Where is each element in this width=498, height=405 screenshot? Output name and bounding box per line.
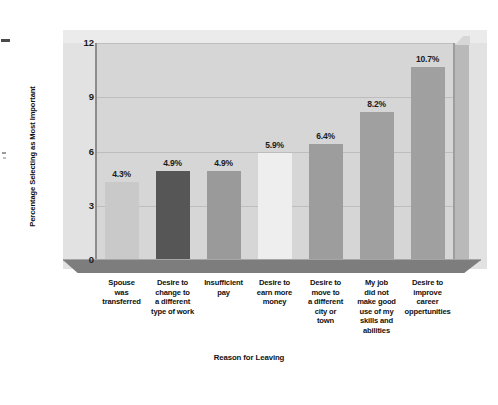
x-axis-category-labels: SpousewastransferredDesire tochange toa … [96, 278, 453, 348]
y-axis-tick-label: 0 [68, 254, 94, 265]
bar-value-label: 6.4% [302, 131, 350, 141]
y-axis-tick-label: 9 [68, 91, 94, 102]
x-axis-category-label: Desire tochange toa differenttype of wor… [145, 278, 201, 316]
x-axis-category-label-line: pay [196, 288, 252, 298]
x-axis-category-label-line: move to [298, 288, 354, 298]
bar [105, 182, 139, 260]
bar-value-label: 4.3% [98, 169, 146, 179]
x-axis-category-label-line: career [400, 297, 456, 307]
chart-right-wall [455, 44, 469, 261]
x-axis-category-label-line: Desire to [400, 278, 456, 288]
x-axis-category-label-line: earn more [247, 288, 303, 298]
x-axis-category-label-line: use of my [349, 307, 405, 317]
x-axis-category-label-line: Insufficient [196, 278, 252, 288]
x-axis-category-label-line: skills and [349, 316, 405, 326]
bar-value-label: 5.9% [251, 140, 299, 150]
x-axis-category-label-line: change to [145, 288, 201, 298]
x-axis-category-label-line: Spouse [94, 278, 150, 288]
x-axis-category-label-line: town [298, 316, 354, 326]
bar-value-label: 8.2% [353, 99, 401, 109]
bar [360, 112, 394, 260]
x-axis-category-label-line: abilities [349, 326, 405, 336]
bar-value-label: 10.7% [404, 54, 452, 64]
x-axis-category-label-line: Desire to [298, 278, 354, 288]
y-axis-title: Percentage Selecting as Most Important [28, 72, 37, 242]
x-axis-category-label-line: type of work [145, 307, 201, 317]
chart-floor [63, 260, 481, 273]
bar [411, 67, 445, 260]
x-axis-category-label: My jobdid notmake gooduse of myskills an… [349, 278, 405, 336]
x-axis-category-label: Desire toearn moremoney [247, 278, 303, 307]
bar-value-label: 4.9% [200, 158, 248, 168]
y-axis-tick-label: 6 [68, 146, 94, 157]
x-axis-category-label-line: city or [298, 307, 354, 317]
x-axis-category-label-line: oppertunities [400, 307, 456, 317]
x-axis-category-label-line: Desire to [247, 278, 303, 288]
bars-layer: 4.3%4.9%4.9%5.9%6.4%8.2%10.7% [96, 43, 453, 260]
y-axis-tick-label: 12 [68, 37, 94, 48]
x-axis-category-label: Spousewastransferred [94, 278, 150, 307]
chart-top-face [63, 30, 487, 43]
bar-value-label: 4.9% [149, 158, 197, 168]
x-axis-category-label-line: make good [349, 297, 405, 307]
bar [309, 144, 343, 260]
x-axis-category-label-line: a different [145, 297, 201, 307]
x-axis-category-label-line: transferred [94, 297, 150, 307]
x-axis-category-label-line: did not [349, 288, 405, 298]
x-axis-category-label: Insufficientpay [196, 278, 252, 297]
x-axis-title: Reason for Leaving [0, 353, 498, 362]
chart-right-wall-edge [453, 43, 455, 261]
x-axis-category-label-line: was [94, 288, 150, 298]
x-axis-category-label-line: Desire to [145, 278, 201, 288]
x-axis-category-label-line: improve [400, 288, 456, 298]
x-axis-category-label-line: a different [298, 297, 354, 307]
bar [156, 171, 190, 260]
x-axis-category-label-line: My job [349, 278, 405, 288]
x-axis-category-label-line: money [247, 297, 303, 307]
x-axis-category-label: Desire toimprovecareeroppertunities [400, 278, 456, 316]
bar [258, 153, 292, 260]
bar [207, 171, 241, 260]
bar-chart-figure: 4.3%4.9%4.9%5.9%6.4%8.2%10.7% 036912 Per… [0, 0, 498, 405]
x-axis-category-label: Desire tomove toa differentcity ortown [298, 278, 354, 326]
y-axis-tick-labels: 036912 [62, 0, 94, 405]
y-axis-tick-label: 3 [68, 200, 94, 211]
